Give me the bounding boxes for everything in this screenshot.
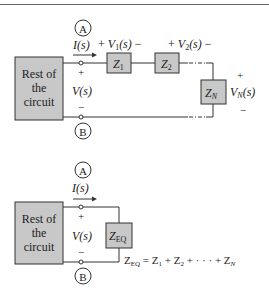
equation-label: ZEQ = Z1 + Z2 + · · · + ZN bbox=[124, 254, 236, 268]
svg-text:circuit: circuit bbox=[24, 240, 55, 254]
node-b-label: B bbox=[79, 126, 86, 138]
svg-text:B: B bbox=[79, 271, 86, 283]
svg-text:+: + bbox=[78, 210, 84, 222]
eq-current-arrow-icon bbox=[92, 197, 97, 202]
svg-text:−: − bbox=[78, 246, 84, 258]
v1-label: + V1(s) − bbox=[98, 37, 142, 52]
svg-text:circuit: circuit bbox=[24, 95, 55, 109]
terminal-a bbox=[79, 61, 83, 65]
eq-current-label: I(s) bbox=[71, 181, 89, 195]
svg-text:−: − bbox=[240, 104, 246, 116]
voltage-label: V(s) bbox=[72, 84, 92, 98]
current-arrow-icon bbox=[92, 53, 97, 58]
svg-text:+: + bbox=[237, 69, 243, 81]
series-circuit: A I(s) + V1(s) − + V2(s) − Rest of the c… bbox=[15, 20, 255, 139]
svg-text:Rest of: Rest of bbox=[22, 212, 56, 226]
circuit-diagram: A I(s) + V1(s) − + V2(s) − Rest of the c… bbox=[0, 0, 269, 301]
svg-text:+: + bbox=[78, 66, 84, 78]
svg-text:Rest of: Rest of bbox=[22, 67, 56, 81]
equivalent-circuit: A I(s) Rest of the circuit ZEQ + V(s) − … bbox=[15, 162, 236, 284]
terminal-b bbox=[79, 115, 83, 119]
svg-text:the: the bbox=[32, 81, 47, 95]
vn-label: VN(s) bbox=[230, 85, 255, 100]
v2-label: + V2(s) − bbox=[168, 37, 212, 52]
svg-text:A: A bbox=[79, 165, 87, 177]
node-a-label: A bbox=[79, 23, 87, 35]
svg-text:V(s): V(s) bbox=[72, 229, 92, 243]
svg-text:−: − bbox=[78, 101, 84, 113]
svg-text:the: the bbox=[32, 226, 47, 240]
current-label: I(s) bbox=[72, 38, 90, 52]
